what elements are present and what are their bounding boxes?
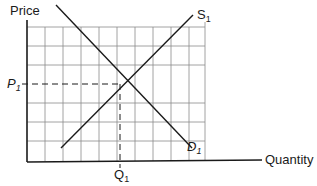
demand-curve	[56, 5, 192, 148]
price-subscript: 1	[16, 83, 21, 93]
price-equilibrium-label: P1	[7, 77, 21, 93]
price-letter: P	[7, 76, 16, 91]
quantity-subscript: 1	[124, 174, 129, 184]
quantity-letter: Q	[114, 167, 124, 182]
y-axis-label: Price	[10, 4, 40, 17]
supply-label: S1	[197, 8, 211, 24]
grid	[27, 22, 205, 161]
supply-letter: S	[197, 7, 206, 22]
x-axis	[27, 160, 262, 162]
demand-label: D1	[187, 140, 201, 156]
demand-letter: D	[187, 139, 196, 154]
supply-subscript: 1	[206, 14, 211, 24]
demand-subscript: 1	[196, 146, 201, 156]
x-axis-label: Quantity	[265, 153, 313, 166]
quantity-equilibrium-label: Q1	[114, 168, 129, 184]
